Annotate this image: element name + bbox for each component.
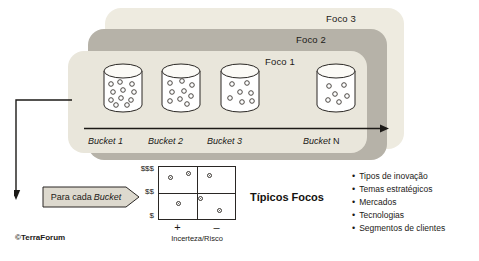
list-item: • Segmentos de clientes xyxy=(352,222,477,235)
list-item-label: Segmentos de clientes xyxy=(359,222,445,235)
bucket-caption-index-3: 3 xyxy=(237,136,242,146)
bucket-caption-2: Bucket 2 xyxy=(148,136,183,146)
focus-items-list: • Tipos de inovação • Temas estratégicos… xyxy=(352,170,477,235)
matrix-horizontal-divider xyxy=(159,193,235,194)
matrix-point xyxy=(217,208,222,213)
bullet-icon: • xyxy=(352,196,355,209)
focus-section-heading: Típicos Focos xyxy=(250,191,324,203)
bullet-icon: • xyxy=(352,170,355,183)
list-item: • Tecnologias xyxy=(352,209,477,222)
list-item-label: Temas estratégicos xyxy=(359,183,432,196)
matrix-xtick-1: – xyxy=(197,221,236,233)
matrix-ytick-2: $ xyxy=(132,211,154,220)
list-item-label: Tipos de inovação xyxy=(359,170,428,183)
bucket-caption-3: Bucket 3 xyxy=(207,136,242,146)
matrix-point xyxy=(207,173,212,178)
bucket-cylinder-2 xyxy=(160,62,202,114)
bucket-caption-word-4: Bucket xyxy=(303,136,331,146)
bullet-icon: • xyxy=(352,183,355,196)
bucket-cylinder-4 xyxy=(315,62,357,114)
bucket-caption-index-4: N xyxy=(333,136,340,146)
matrix-point xyxy=(186,171,191,176)
matrix-point xyxy=(168,175,173,180)
para-cada-bucket-chevron[interactable]: Para cadaBucket xyxy=(42,186,140,208)
matrix-ytick-1: $$ xyxy=(132,187,154,196)
focus-card-label-foco1: Foco 1 xyxy=(265,56,295,67)
copyright-notice: ©TerraForum xyxy=(15,233,65,242)
list-item: • Tipos de inovação xyxy=(352,170,477,183)
bucket-caption-4: Bucket N xyxy=(303,136,340,146)
list-item-label: Mercados xyxy=(359,196,396,209)
focus-card-label-foco3: Foco 3 xyxy=(326,13,356,24)
bucket-caption-word-3: Bucket xyxy=(207,136,235,146)
diagram-canvas: Foco 3 Foco 2 Foco 1 xyxy=(0,0,479,261)
matrix-xaxis-label: Incerteza/Risco xyxy=(158,234,236,243)
list-item-label: Tecnologias xyxy=(359,209,404,222)
matrix-point xyxy=(176,201,181,206)
process-connector-arrow xyxy=(14,98,132,200)
bucket-cylinder-3 xyxy=(219,62,261,114)
matrix-point xyxy=(198,196,203,201)
matrix-plot-area xyxy=(158,166,236,220)
bucket-caption-index-2: 2 xyxy=(178,136,183,146)
bullet-icon: • xyxy=(352,209,355,222)
bucket-caption-word-2: Bucket xyxy=(148,136,176,146)
bullet-icon: • xyxy=(352,222,355,235)
list-item: • Mercados xyxy=(352,196,477,209)
matrix-xtick-0: + xyxy=(158,221,197,233)
focus-card-label-foco2: Foco 2 xyxy=(296,34,326,45)
matrix-ytick-0: $$$ xyxy=(132,164,154,173)
list-item: • Temas estratégicos xyxy=(352,183,477,196)
risk-return-matrix: $$$ $$ $ + – Incerteza/Risco xyxy=(132,166,244,246)
